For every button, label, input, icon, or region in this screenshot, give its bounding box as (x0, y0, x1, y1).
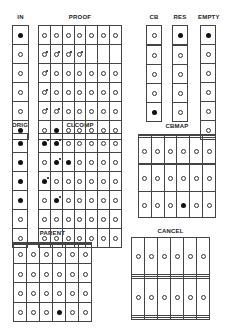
grid-cell (132, 318, 145, 320)
filled-dot-icon (57, 310, 62, 315)
open-circle-icon (89, 90, 94, 95)
open-circle-icon (206, 128, 211, 133)
grid-cell (98, 83, 110, 102)
grid-cell (86, 210, 98, 229)
grid-cell (184, 318, 197, 320)
grid-cell (50, 210, 62, 229)
open-circle-icon (89, 179, 94, 184)
open-circle-icon (54, 33, 59, 38)
open-circle-marked-icon (42, 71, 47, 76)
grid-cell (13, 83, 29, 102)
open-circle-icon (18, 236, 23, 241)
open-circle-icon (89, 109, 94, 114)
open-circle-icon (194, 149, 199, 154)
open-circle-icon (83, 291, 88, 296)
grid-row (39, 102, 122, 121)
open-circle-icon (142, 176, 147, 181)
grid-cell (86, 102, 98, 121)
grid-cell (177, 165, 190, 191)
open-circle-icon (66, 33, 71, 38)
grid-cell (66, 245, 79, 264)
open-circle-icon (18, 272, 23, 277)
grid-cell (190, 191, 203, 217)
open-circle-icon (89, 71, 94, 76)
open-circle-icon (66, 90, 71, 95)
open-circle-icon (89, 236, 94, 241)
grid-row (173, 46, 188, 65)
grid-cell (39, 153, 51, 172)
open-circle-icon (194, 203, 199, 208)
grid-cell (110, 210, 122, 229)
open-circle-icon (188, 295, 193, 300)
grid-cell (132, 238, 145, 275)
open-circle-icon (113, 160, 118, 165)
grid-cell (86, 83, 98, 102)
grid-cell (98, 45, 110, 64)
open-circle-icon (77, 179, 82, 184)
grid-cell (147, 65, 162, 84)
open-circle-icon (101, 217, 106, 222)
open-circle-icon (77, 160, 82, 165)
open-circle-icon (101, 160, 106, 165)
open-circle-icon (175, 295, 180, 300)
grid-cell (86, 172, 98, 191)
grid-cell (201, 26, 216, 45)
open-circle-icon (44, 291, 49, 296)
open-circle-icon (206, 90, 211, 95)
open-circle-icon (152, 72, 157, 77)
grid-cell (171, 318, 184, 320)
open-circle-icon (168, 149, 173, 154)
grid-cell (132, 278, 145, 315)
grid-cell (139, 191, 152, 217)
grid-cell (139, 137, 152, 163)
open-circle-icon (18, 109, 23, 114)
grid-cell (74, 102, 86, 121)
open-circle-marked-icon (54, 109, 59, 114)
filled-dot-icon (18, 198, 23, 203)
grid-row (13, 134, 28, 153)
filled-dot-icon (18, 179, 23, 184)
grid-cell (40, 264, 53, 283)
grid-row (147, 26, 162, 45)
grid-cell (79, 245, 92, 264)
open-circle-icon (66, 141, 71, 146)
open-circle-marked-icon (77, 52, 82, 57)
open-circle-icon (31, 272, 36, 277)
grid-cell (145, 278, 158, 315)
open-circle-icon (77, 71, 82, 76)
grid-cell (147, 84, 162, 103)
grid-cell (53, 245, 66, 264)
open-circle-icon (31, 291, 36, 296)
open-circle-icon (42, 217, 47, 222)
grid-row (132, 238, 210, 275)
grid-cell (50, 102, 62, 121)
grid-row (201, 26, 216, 45)
filled-dot-icon (18, 160, 23, 165)
grid-cell (158, 278, 171, 315)
grid-cell (184, 278, 197, 315)
filled-dot-marked-icon (54, 198, 59, 203)
open-circle-icon (101, 179, 106, 184)
grid-cell (74, 134, 86, 153)
grid-row (39, 191, 122, 210)
grid-cell (74, 64, 86, 83)
grid-row (13, 45, 29, 64)
grid-cell (62, 64, 74, 83)
open-circle-icon (83, 310, 88, 315)
open-circle-icon (113, 217, 118, 222)
grid-cell (79, 264, 92, 283)
open-circle-icon (206, 109, 211, 114)
open-circle-icon (181, 149, 186, 154)
open-circle-icon (101, 71, 106, 76)
grid-row (201, 64, 216, 83)
open-circle-marked-icon (42, 52, 47, 57)
grid-cell (50, 172, 62, 191)
filled-dot-marked-icon (54, 160, 59, 165)
open-circle-icon (66, 179, 71, 184)
grid-row (201, 83, 216, 102)
grid-cell (158, 318, 171, 320)
grid-cbmap (138, 134, 216, 218)
grid-cell (39, 26, 51, 45)
grid-cell (110, 45, 122, 64)
grid-row (13, 210, 28, 229)
